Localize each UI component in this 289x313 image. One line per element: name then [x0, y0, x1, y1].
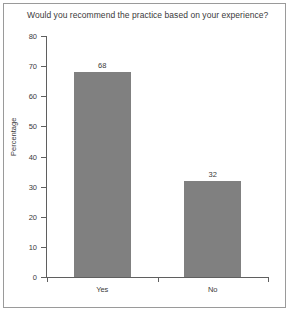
bar-value-no: 32 — [209, 170, 217, 179]
bar-yes[interactable] — [74, 72, 131, 277]
y-tick-label-60: 60 — [17, 92, 37, 101]
y-tick-label-50: 50 — [17, 122, 37, 131]
x-tick-0 — [47, 277, 48, 282]
x-category-label-no: No — [208, 285, 218, 294]
y-tick-label-10: 10 — [17, 242, 37, 251]
y-tick-label-20: 20 — [17, 212, 37, 221]
x-tick-2 — [268, 277, 269, 282]
bar-value-yes: 68 — [98, 61, 106, 70]
plot-area — [47, 36, 268, 277]
y-tick-label-0: 0 — [17, 273, 37, 282]
y-tick-label-80: 80 — [17, 32, 37, 41]
chart-figure: Would you recommend the practice based o… — [0, 0, 289, 313]
chart-title: Would you recommend the practice based o… — [27, 10, 277, 20]
y-tick-label-40: 40 — [17, 152, 37, 161]
y-tick-label-70: 70 — [17, 62, 37, 71]
x-category-label-yes: Yes — [96, 285, 108, 294]
x-tick-1 — [158, 277, 159, 282]
y-tick-label-30: 30 — [17, 182, 37, 191]
bar-no[interactable] — [184, 181, 241, 277]
